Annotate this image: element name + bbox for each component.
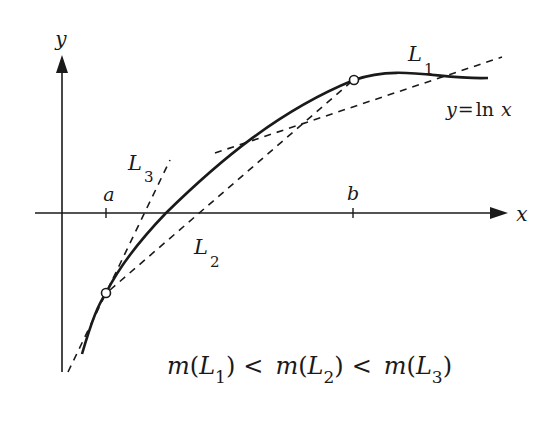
y-axis: y: [54, 27, 68, 372]
curve-label: y=lnx: [445, 98, 512, 120]
point-b-on-curve: [350, 76, 359, 85]
svg-text:2: 2: [210, 253, 220, 271]
tick-b-label: b: [347, 182, 359, 204]
tick-a-label: a: [103, 183, 114, 205]
svg-text:L: L: [193, 235, 208, 259]
point-a-on-curve: [102, 289, 111, 298]
x-axis: x: [35, 202, 528, 226]
line-L2-secant: [110, 83, 350, 290]
x-axis-label: x: [516, 202, 527, 226]
line-L3-tangent-at-a: [68, 160, 170, 372]
svg-text:3: 3: [144, 168, 154, 186]
slope-inequality-formula: m(L1)<m(L2)<m(L3): [167, 352, 452, 387]
x-axis-arrow-icon: [490, 207, 508, 219]
label-L2: L 2: [193, 235, 220, 271]
svg-text:y=lnx: y=lnx: [445, 98, 512, 120]
y-axis-arrow-icon: [56, 55, 68, 73]
svg-text:L: L: [127, 151, 142, 175]
y-axis-label: y: [54, 27, 67, 51]
svg-text:1: 1: [424, 60, 434, 78]
svg-text:L: L: [407, 42, 422, 66]
svg-text:m(L1)<m(L2)<m(L3): m(L1)<m(L2)<m(L3): [167, 352, 452, 387]
label-L3: L 3: [127, 151, 154, 186]
ln-tangent-secant-diagram: y x a b L 1 L 2 L 3 y=lnx: [0, 0, 558, 425]
